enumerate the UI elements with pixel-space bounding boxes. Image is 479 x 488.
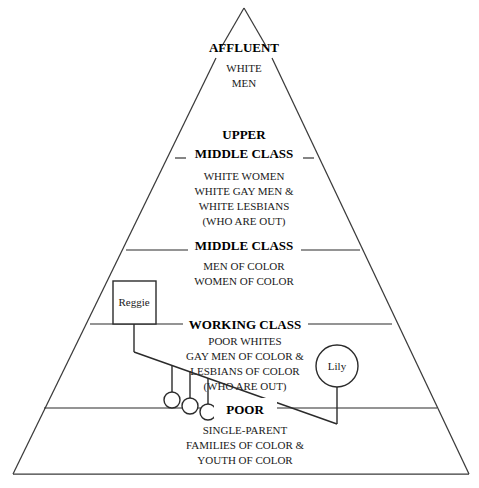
child-1-circle[interactable] bbox=[164, 392, 180, 408]
tier-upper-middle-class-line-2: WHITE GAY MEN & bbox=[194, 185, 294, 197]
child-3-circle[interactable] bbox=[200, 404, 216, 420]
tier-poor-line-1: SINGLE-PARENT bbox=[203, 424, 288, 436]
tier-working-class-line-3: LESBIANS OF COLOR bbox=[190, 365, 300, 377]
pyramid-canvas: AFFLUENT WHITE MEN UPPER MIDDLE CLASS WH… bbox=[0, 0, 479, 488]
tier-upper-middle-class: UPPER MIDDLE CLASS WHITE WOMEN WHITE GAY… bbox=[194, 127, 294, 228]
tier-middle-class-heading: MIDDLE CLASS bbox=[195, 238, 294, 253]
tier-upper-middle-class-line-1: WHITE WOMEN bbox=[204, 170, 285, 182]
tier-poor-line-3: YOUTH OF COLOR bbox=[197, 454, 293, 466]
lily-node-label: Lily bbox=[328, 360, 347, 372]
tier-poor-heading: POOR bbox=[226, 402, 264, 417]
tier-upper-middle-class-line-4: (WHO ARE OUT) bbox=[202, 215, 285, 228]
child-2-circle[interactable] bbox=[182, 398, 198, 414]
tier-affluent-line-1: WHITE bbox=[226, 62, 262, 74]
tier-affluent-heading: AFFLUENT bbox=[209, 40, 279, 55]
tier-working-class: WORKING CLASS POOR WHITES GAY MEN OF COL… bbox=[186, 317, 304, 393]
tier-working-class-heading: WORKING CLASS bbox=[189, 317, 301, 332]
tier-middle-class: MIDDLE CLASS MEN OF COLOR WOMEN OF COLOR bbox=[194, 238, 294, 287]
tier-upper-middle-class-heading-line-1: UPPER bbox=[222, 127, 266, 142]
tier-upper-middle-class-line-3: WHITE LESBIANS bbox=[199, 200, 290, 212]
tier-working-class-line-2: GAY MEN OF COLOR & bbox=[186, 350, 304, 362]
tier-affluent: AFFLUENT WHITE MEN bbox=[209, 40, 279, 89]
class-pyramid-diagram: AFFLUENT WHITE MEN UPPER MIDDLE CLASS WH… bbox=[0, 0, 479, 488]
tier-middle-class-line-2: WOMEN OF COLOR bbox=[194, 275, 294, 287]
tier-middle-class-line-1: MEN OF COLOR bbox=[203, 260, 285, 272]
tier-upper-middle-class-heading-line-2: MIDDLE CLASS bbox=[195, 146, 294, 161]
tier-affluent-line-2: MEN bbox=[232, 77, 257, 89]
reggie-node-label: Reggie bbox=[118, 296, 149, 308]
tier-working-class-line-1: POOR WHITES bbox=[208, 335, 281, 347]
tier-poor-line-2: FAMILIES OF COLOR & bbox=[186, 439, 305, 451]
